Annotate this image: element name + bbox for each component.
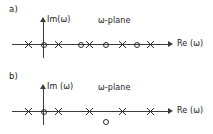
panel-b-pole-marker <box>119 108 126 115</box>
panel-b-pole-marker <box>147 108 154 115</box>
panel-a-imaginary-axis-arrow-icon <box>40 17 46 22</box>
panel-a-pole-marker <box>86 41 93 48</box>
panel-b-pole-marker <box>86 108 93 115</box>
panel-a-zero-marker <box>77 41 84 48</box>
panel-a-pole-marker <box>147 41 154 48</box>
panel-a-pole-marker <box>119 41 126 48</box>
panel-a-imaginary-axis-label: Im(ω) <box>47 15 71 24</box>
panel-a-plane-label: ω-plane <box>98 16 130 25</box>
panel-a-pole-marker <box>55 41 62 48</box>
panel-b-real-axis-arrow-icon <box>168 108 173 114</box>
panel-b-offaxis-zero-marker <box>102 118 109 125</box>
panel-b: b) Im (ω) ω-plane Re (ω) <box>0 67 213 134</box>
panel-a-pole-marker <box>25 41 32 48</box>
panel-a-real-axis-arrow-icon <box>168 41 173 47</box>
panel-a-caption: a) <box>9 4 18 14</box>
panel-a-zero-marker <box>102 41 109 48</box>
panel-b-imaginary-axis-label: Im (ω) <box>47 82 73 91</box>
panel-b-pole-marker <box>25 108 32 115</box>
panel-b-pole-marker <box>55 108 62 115</box>
panel-a: a) Im(ω) ω-plane Re (ω) <box>0 0 213 67</box>
panel-a-zero-marker <box>133 41 140 48</box>
panel-a-real-axis-label: Re (ω) <box>177 39 203 48</box>
panel-b-imaginary-axis-arrow-icon <box>40 84 46 89</box>
panel-b-real-axis-label: Re (ω) <box>177 106 203 115</box>
panel-b-caption: b) <box>9 71 18 81</box>
panel-a-zero-marker <box>40 41 47 48</box>
panel-b-plane-label: ω-plane <box>98 83 130 92</box>
panel-b-zero-marker <box>40 108 47 115</box>
figure-omega-plane-diagrams: a) Im(ω) ω-plane Re (ω) b) Im (ω) ω <box>0 0 213 134</box>
